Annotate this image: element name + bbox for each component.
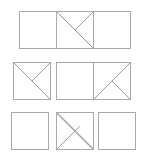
row2-cell1-anti-diagonal-half (32, 63, 50, 81)
row-1 (0, 11, 149, 61)
row1-cell2-lines (57, 12, 93, 48)
row3-cell2 (56, 112, 94, 150)
geometric-pattern-figure (0, 0, 149, 162)
row1-cell2 (56, 11, 94, 49)
row-3 (0, 112, 149, 162)
row2-cell2 (56, 62, 94, 100)
row3-cell2-anti-diagonal-half (57, 126, 80, 149)
row2-cell1-lines (14, 63, 50, 99)
row3-cell2-lines (57, 113, 93, 149)
row3-cell1 (11, 112, 49, 150)
row1-cell3 (93, 11, 131, 49)
row3-cell3 (98, 112, 136, 150)
row2-cell1 (13, 62, 51, 100)
row-2 (0, 62, 149, 112)
row2-cell3-main-diagonal-half (112, 81, 130, 99)
row2-cell3-lines (94, 63, 130, 99)
row1-cell2-anti-diagonal-half (75, 12, 93, 30)
row1-cell1 (19, 11, 57, 49)
row2-cell3 (93, 62, 131, 100)
